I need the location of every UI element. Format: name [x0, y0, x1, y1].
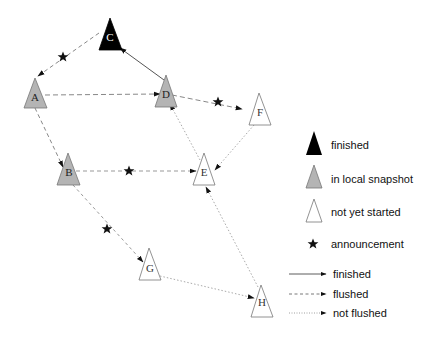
legend-label: in local snapshot [331, 173, 413, 185]
legend-item-in-local-snapshot: in local snapshot [306, 165, 413, 188]
node-d-label: D [162, 88, 170, 100]
node-h: H [251, 285, 273, 317]
not-yet-started-triangle-icon [306, 199, 322, 222]
finished-triangle-icon [306, 131, 322, 155]
node-f: F [249, 93, 271, 125]
node-e: E [193, 153, 215, 185]
node-h-label: H [258, 296, 266, 308]
announcement-star-icon [102, 224, 113, 234]
edge-h-e [206, 187, 258, 287]
legend: finished in local snapshot not yet start… [289, 131, 413, 319]
node-e-label: E [201, 166, 208, 178]
edge-b-g [73, 185, 143, 262]
legend-item-finished-edge: finished [289, 268, 371, 280]
node-c: C [99, 18, 122, 50]
announcement-star-icon [58, 52, 69, 62]
edge-d-c [120, 48, 164, 80]
legend-label: announcement [331, 238, 404, 250]
legend-item-not-yet-started: not yet started [306, 199, 401, 222]
node-b-label: B [65, 166, 72, 178]
edge-e-d [170, 104, 200, 160]
legend-item-flushed-edge: flushed [289, 288, 368, 300]
legend-label: not flushed [333, 307, 387, 319]
node-d: D [155, 75, 177, 107]
nodes: A B C D E F G H [24, 18, 273, 317]
legend-label: finished [331, 139, 369, 151]
node-b: B [57, 153, 80, 185]
edge-g-h [160, 276, 254, 298]
announcement-star-icon [308, 239, 319, 249]
in-local-snapshot-triangle-icon [306, 165, 322, 188]
node-c-label: C [106, 31, 113, 43]
snapshot-diagram: A B C D E F G H [0, 0, 434, 338]
legend-label: finished [333, 268, 371, 280]
node-a: A [24, 78, 47, 108]
node-f-label: F [257, 106, 263, 118]
node-a-label: A [31, 91, 39, 103]
legend-label: flushed [333, 288, 368, 300]
announcements [58, 52, 224, 234]
edge-c-a [38, 33, 99, 76]
edge-d-f [172, 95, 242, 109]
edge-f-e [215, 125, 254, 170]
edge-a-b [35, 108, 63, 167]
legend-item-finished-node: finished [306, 131, 369, 155]
legend-item-not-flushed-edge: not flushed [289, 307, 387, 319]
node-g: G [139, 248, 161, 280]
announcement-star-icon [124, 166, 135, 176]
legend-label: not yet started [331, 206, 401, 218]
edge-a-d [45, 94, 160, 95]
legend-item-announcement: announcement [308, 238, 404, 250]
node-g-label: G [146, 262, 154, 274]
